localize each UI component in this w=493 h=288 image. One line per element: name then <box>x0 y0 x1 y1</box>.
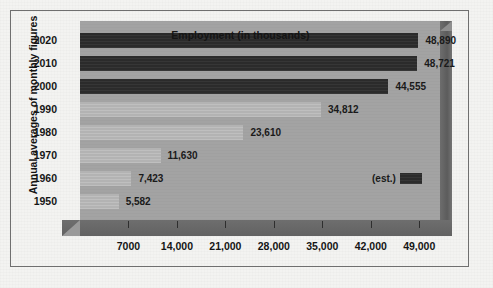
y-axis-label-1980: 1980 <box>23 125 57 140</box>
bar-value-label-1990: 34,812 <box>328 102 359 117</box>
y-axis-label-2010: 2010 <box>23 56 57 71</box>
x-tick-7000 <box>128 221 129 228</box>
x-tick-label-49,000: 49,000 <box>389 240 449 252</box>
y-axis-label-1960: 1960 <box>23 171 57 186</box>
x-tick-49,000 <box>419 221 420 228</box>
plot-floor <box>62 220 452 236</box>
bar-1950 <box>80 194 119 209</box>
y-axis-label-1990: 1990 <box>23 102 57 117</box>
estimate-legend-label: (est.) <box>372 173 396 184</box>
bar-1970 <box>80 148 161 163</box>
bar-value-label-1960: 7,423 <box>138 171 163 186</box>
x-tick-21,000 <box>225 221 226 228</box>
bar-row: 34,812 <box>80 102 440 117</box>
x-tick-42,000 <box>371 221 372 228</box>
bar-1960 <box>80 171 131 186</box>
plot-area: 48,89048,72144,55534,81223,61011,6307,42… <box>80 21 440 220</box>
bar-value-label-2010: 48,721 <box>424 56 455 71</box>
plot-right-wall <box>440 21 452 236</box>
bar-value-label-1950: 5,582 <box>126 194 151 209</box>
y-axis-label-1970: 1970 <box>23 148 57 163</box>
bar-value-label-1970: 11,630 <box>168 148 198 163</box>
y-axis-label-1950: 1950 <box>23 194 57 209</box>
bar-row: 5,582 <box>80 194 440 209</box>
x-tick-14,000 <box>177 221 178 228</box>
bar-value-label-2000: 44,555 <box>395 79 426 94</box>
estimate-legend-swatch <box>400 173 422 184</box>
y-axis-label-2000: 2000 <box>23 79 57 94</box>
x-axis-title: Employment (in thousands) <box>11 29 470 41</box>
figure-frame: Annual averages of monthly figures 20202… <box>10 10 469 267</box>
chart-page: Annual averages of monthly figures 20202… <box>0 0 493 288</box>
chart-plot-3d: 48,89048,72144,55534,81223,61011,6307,42… <box>62 21 452 236</box>
bar-2000 <box>80 79 388 94</box>
bar-row: 23,610 <box>80 125 440 140</box>
x-tick-35,000 <box>322 221 323 228</box>
bar-row: 11,630 <box>80 148 440 163</box>
bar-value-label-1980: 23,610 <box>250 125 281 140</box>
bar-row: 48,721 <box>80 56 440 71</box>
bar-row: 44,555 <box>80 79 440 94</box>
estimate-legend: (est.) <box>372 173 422 184</box>
bar-2010 <box>80 56 417 71</box>
bar-1990 <box>80 102 321 117</box>
x-tick-28,000 <box>274 221 275 228</box>
bar-1980 <box>80 125 243 140</box>
